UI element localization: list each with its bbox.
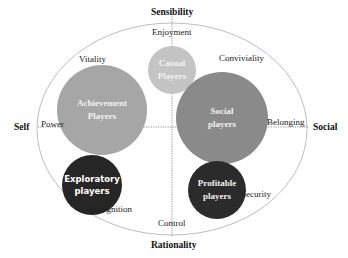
player-motivation-diagram: Casual Players Achievement Players Socia… [0,0,348,258]
motivation-belonging: Belonging [267,118,305,127]
motivation-control: Control [158,219,186,228]
social-players-bubble: Social players [176,72,268,164]
casual-players-label-2: Players [158,70,187,83]
axis-label-sensibility: Sensibility [151,8,193,18]
exploratory-players-label-1: Exploratory [64,173,120,185]
axis-label-self: Self [14,123,29,133]
axis-label-social: Social [313,123,337,133]
axis-label-rationality: Rationality [151,241,196,251]
profitable-players-label-2: players [203,190,231,203]
casual-players-label-1: Casual [159,57,186,70]
motivation-power: Power [41,120,64,129]
achievement-players-label-2: Players [88,110,117,123]
motivation-enjoyment: Enjoyment [152,28,192,37]
motivation-conviviality: Conviviality [219,54,264,63]
motivation-vitality: Vitality [79,55,106,64]
motivation-security: Security [241,190,271,199]
profitable-players-bubble: Profitable players [188,161,246,219]
social-players-label-2: players [208,118,236,131]
exploratory-players-label-2: players [74,185,109,197]
social-players-label-1: Social [210,105,233,118]
achievement-players-label-1: Achievement [77,97,127,110]
profitable-players-label-1: Profitable [198,177,236,190]
motivation-recognition: Recognition [88,205,132,214]
achievement-players-bubble: Achievement Players [57,65,147,155]
